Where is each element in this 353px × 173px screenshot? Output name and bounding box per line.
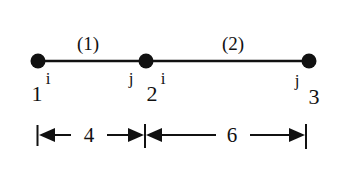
node-1-dot	[31, 54, 46, 69]
element-2-label: (2)	[222, 33, 244, 55]
arrowhead-right-icon	[289, 128, 305, 142]
arrowhead-right-icon	[128, 128, 144, 142]
element-2-i-label: i	[161, 69, 166, 88]
element-1-i-label: i	[46, 69, 51, 88]
arrowhead-left-icon	[39, 128, 55, 142]
node-2-label: 2	[147, 81, 158, 106]
dimension-4-label: 4	[84, 123, 95, 147]
dimension-6: 6	[146, 123, 306, 149]
bar-element-diagram: (1) (2) i 1 j 2 i j 3 4 6	[0, 0, 353, 173]
arrowhead-left-icon	[146, 128, 162, 142]
dimension-4: 4	[38, 123, 145, 147]
element-1-label: (1)	[77, 33, 99, 55]
node-3-label: 3	[309, 84, 320, 109]
node-1-label: 1	[32, 81, 43, 106]
element-1-j-label: j	[128, 69, 134, 88]
node-3-dot	[302, 54, 317, 69]
dimension-6-label: 6	[227, 123, 238, 147]
element-2-j-label: j	[294, 71, 300, 90]
node-2-dot	[139, 54, 154, 69]
